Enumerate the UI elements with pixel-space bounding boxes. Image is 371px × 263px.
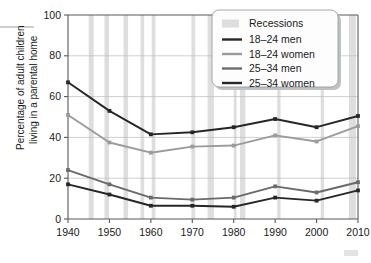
y-axis-title-line1: Percentage of adult children [15, 25, 26, 150]
data-point [149, 204, 153, 208]
data-point [356, 124, 360, 128]
recession-band [191, 15, 195, 219]
y-axis-title: Percentage of adult children living in a… [15, 25, 39, 150]
data-point [190, 145, 194, 149]
legend-label-4: 25–34 women [249, 77, 315, 89]
line-chart: 020406080100 194019501960197019801990200… [0, 0, 371, 263]
data-point [108, 109, 112, 113]
y-tick-label: 100 [43, 9, 61, 21]
data-point [149, 132, 153, 136]
data-point [66, 113, 70, 117]
y-tick-label: 0 [55, 213, 61, 225]
data-point [108, 182, 112, 186]
data-point [315, 125, 319, 129]
data-point [315, 191, 319, 195]
data-point [66, 80, 70, 84]
x-tick-label: 1960 [139, 226, 163, 238]
data-point [190, 198, 194, 202]
data-point [232, 205, 236, 209]
legend-label-3: 25–34 men [249, 62, 302, 74]
y-tick-label: 40 [49, 131, 61, 143]
data-point [273, 133, 277, 137]
data-point [190, 130, 194, 134]
recession-band [141, 15, 145, 219]
data-point [315, 140, 319, 144]
y-tick-label: 60 [49, 90, 61, 102]
data-point [273, 196, 277, 200]
x-tick-label: 1970 [181, 226, 205, 238]
data-point [149, 151, 153, 155]
y-tick-label: 20 [49, 172, 61, 184]
data-point [66, 182, 70, 186]
data-point [190, 204, 194, 208]
x-tick-label: 1950 [98, 226, 122, 238]
data-point [232, 144, 236, 148]
y-axis-title-line2: living in a parental home [28, 35, 39, 144]
data-point [232, 196, 236, 200]
y-axis-ticks: 020406080100 [43, 9, 68, 225]
page-artifact [344, 250, 358, 256]
y-tick-label: 80 [49, 49, 61, 61]
x-tick-label: 1980 [222, 226, 246, 238]
data-point [108, 193, 112, 197]
recession-band [89, 15, 94, 219]
chart-container: 020406080100 194019501960197019801990200… [0, 0, 371, 263]
data-point [66, 168, 70, 172]
data-point [356, 189, 360, 193]
legend: Recessions18–24 men18–24 women25–34 men2… [212, 10, 341, 90]
data-point [315, 199, 319, 203]
x-tick-label: 1940 [56, 226, 80, 238]
legend-label-1: 18–24 men [249, 33, 302, 45]
legend-swatch-recessions [222, 20, 239, 28]
x-tick-label: 2010 [346, 226, 370, 238]
data-point [273, 184, 277, 188]
x-tick-label: 2000 [305, 226, 329, 238]
data-point [232, 125, 236, 129]
legend-label-2: 18–24 women [249, 48, 315, 60]
data-point [149, 196, 153, 200]
data-point [108, 141, 112, 145]
data-point [273, 117, 277, 121]
data-point [356, 180, 360, 184]
x-tick-label: 1990 [263, 226, 287, 238]
x-axis-ticks: 19401950196019701980199020002010 [56, 219, 370, 238]
recession-band [152, 15, 156, 219]
recession-band [104, 15, 109, 219]
legend-label-recessions: Recessions [249, 17, 303, 29]
data-point [356, 114, 360, 118]
